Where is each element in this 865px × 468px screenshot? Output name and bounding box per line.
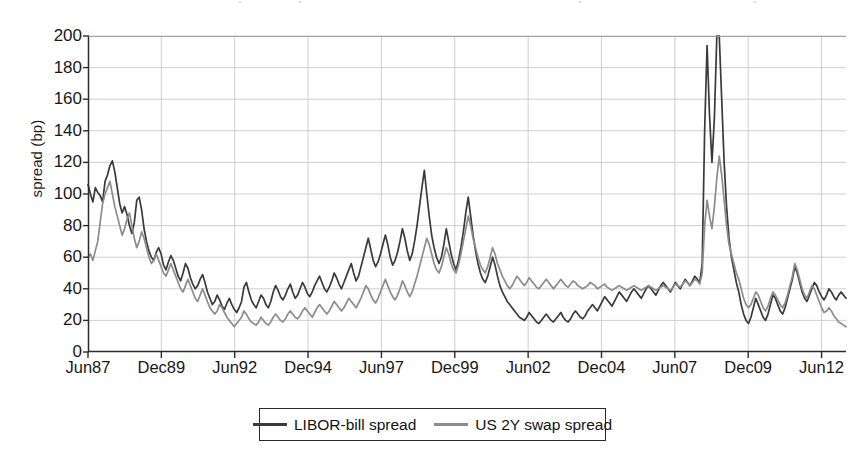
y-tick-label: 160 <box>36 90 82 107</box>
legend-line-swatch-dark <box>253 423 287 427</box>
plot-area <box>88 36 846 352</box>
chart-canvas <box>80 34 848 362</box>
chart-legend: LIBOR-bill spread US 2Y swap spread <box>259 408 606 441</box>
page-caption-artifact <box>180 0 780 6</box>
legend-label-us-2y-swap-spread: US 2Y swap spread <box>475 416 612 434</box>
y-tick-label: 180 <box>36 59 82 76</box>
legend-label-libor-bill-spread: LIBOR-bill spread <box>294 416 416 434</box>
y-tick-label: 40 <box>36 280 82 297</box>
y-tick-label: 20 <box>36 311 82 328</box>
y-tick-label: 200 <box>36 27 82 44</box>
legend-entry-us-2y-swap-spread: US 2Y swap spread <box>434 416 612 434</box>
y-axis-tick-labels: 020406080100120140160180200 <box>32 0 82 468</box>
chart-figure: spread (bp) 020406080100120140160180200 … <box>0 0 865 468</box>
legend-line-swatch-gray <box>434 423 468 427</box>
y-tick-label: 60 <box>36 248 82 265</box>
y-tick-label: 120 <box>36 153 82 170</box>
series-line <box>88 36 846 324</box>
y-tick-label: 140 <box>36 122 82 139</box>
series-line <box>88 156 846 327</box>
y-tick-label: 80 <box>36 217 82 234</box>
legend-entry-libor-bill-spread: LIBOR-bill spread <box>253 416 416 434</box>
y-tick-label: 100 <box>36 185 82 202</box>
